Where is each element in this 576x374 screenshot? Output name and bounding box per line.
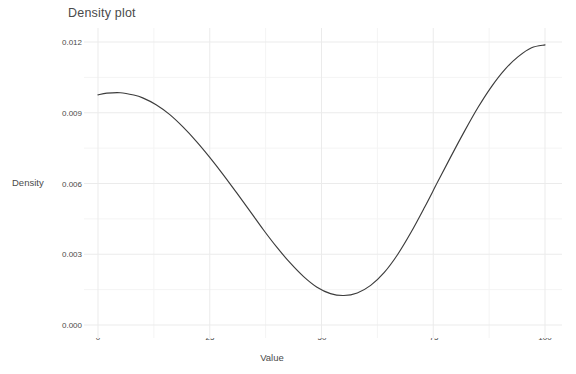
x-axis-label-wrap: Value xyxy=(0,352,576,363)
plot-panel xyxy=(84,28,562,338)
major-gridlines xyxy=(84,28,562,338)
chart-title: Density plot xyxy=(68,6,136,20)
chart-page: Density plot Density 0.000 0.003 0.006 0… xyxy=(0,0,576,374)
y-tick-label: 0.009 xyxy=(28,109,82,118)
y-tick-label: 0.000 xyxy=(28,321,82,330)
y-tick-label: 0.012 xyxy=(28,38,82,47)
y-axis-label: Density xyxy=(12,177,44,188)
density-plot-svg xyxy=(84,28,562,338)
x-axis-label: Value xyxy=(260,352,284,363)
y-tick-label: 0.003 xyxy=(28,250,82,259)
